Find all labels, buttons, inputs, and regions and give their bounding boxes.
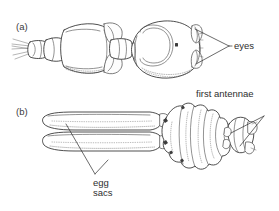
median-pigment-spot xyxy=(175,43,178,47)
panel-b-label: (b) xyxy=(16,106,28,117)
appendage-stub-lower xyxy=(223,139,230,148)
panel-a-label: (a) xyxy=(16,21,28,32)
panel-b-group: (b) xyxy=(16,88,264,198)
eyes-label: eyes xyxy=(234,40,254,51)
panel-a-group: (a) xyxy=(12,21,254,78)
copepod-anatomy-illustration: (a) xyxy=(0,0,279,211)
lobed-trunk xyxy=(162,103,232,169)
cephalothorax xyxy=(132,21,201,78)
body-waist-joint xyxy=(110,39,133,60)
figure-container: (a) xyxy=(0,0,279,211)
egg-sacs-label-line2: sacs xyxy=(93,187,113,198)
first-antennae-label: first antennae xyxy=(196,88,254,99)
appendage-stub-upper xyxy=(224,127,231,136)
first-antenna-ventral xyxy=(245,142,255,154)
